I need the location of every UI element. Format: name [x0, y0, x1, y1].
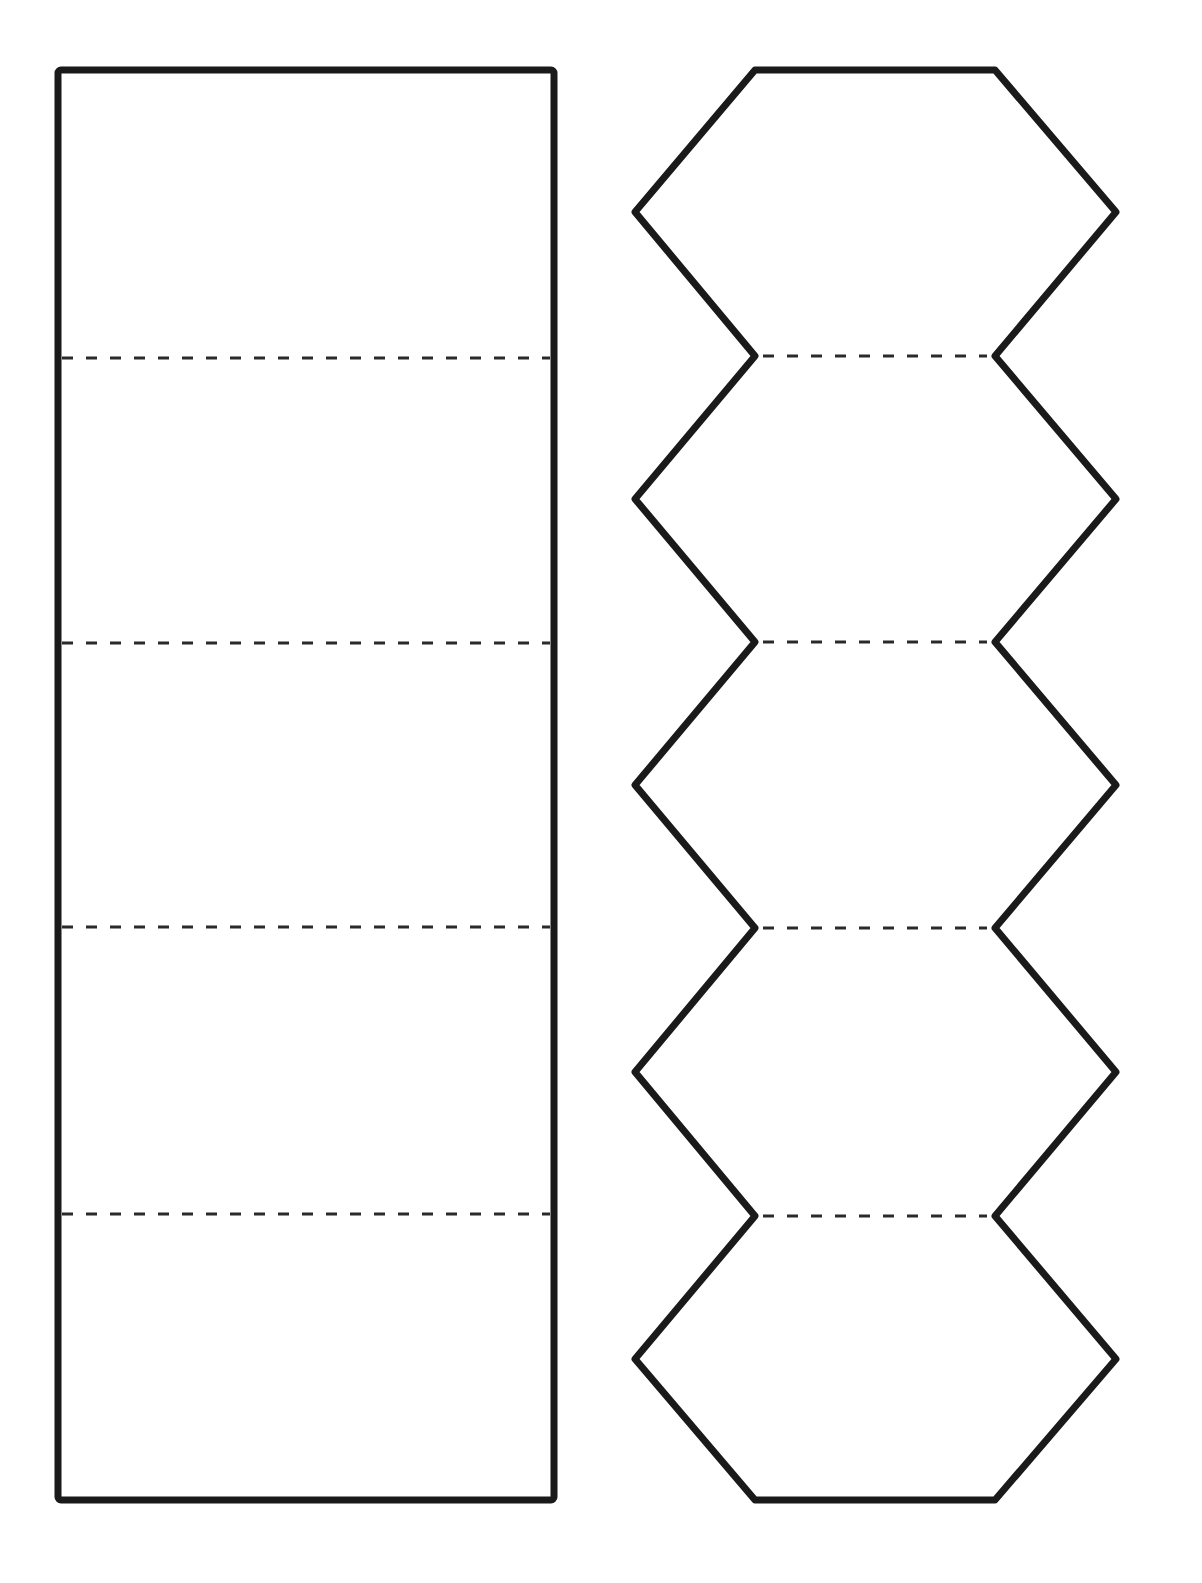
- diagram-canvas: [0, 0, 1202, 1583]
- rectangle-strip: [58, 70, 554, 1500]
- hexagon-chain-outline: [635, 70, 1116, 1500]
- hexagon-chain: [635, 70, 1116, 1500]
- rectangle-outline: [58, 70, 554, 1500]
